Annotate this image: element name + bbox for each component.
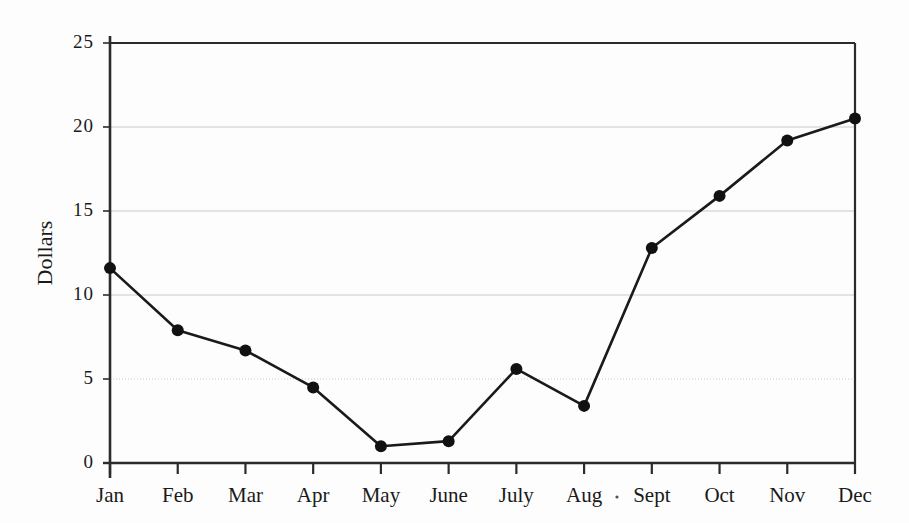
data-point-july	[510, 363, 522, 375]
data-point-aug	[578, 400, 590, 412]
y-axis-title: Dollars	[32, 221, 57, 286]
y-tick-label-5: 5	[84, 367, 95, 388]
y-tick-label-15: 15	[73, 199, 94, 220]
x-tick-label-apr: Apr	[297, 483, 330, 507]
data-point-sept	[646, 242, 658, 254]
data-point-mar	[239, 344, 251, 356]
data-point-june	[443, 435, 455, 447]
data-point-may	[375, 440, 387, 452]
chart-background	[0, 0, 909, 523]
y-tick-label-10: 10	[73, 283, 94, 304]
x-tick-label-july: July	[499, 483, 535, 507]
data-point-apr	[307, 381, 319, 393]
x-tick-label-june: June	[429, 483, 468, 507]
chart-page: 0510152025 JanFebMarAprMayJuneJulyAugSep…	[0, 0, 909, 523]
x-tick-label-feb: Feb	[162, 483, 194, 507]
y-tick-label-20: 20	[73, 115, 94, 136]
y-tick-label-25: 25	[73, 31, 94, 52]
x-tick-label-jan: Jan	[96, 483, 124, 507]
data-point-dec	[849, 113, 861, 125]
x-tick-label-sept: Sept	[633, 483, 671, 507]
data-point-feb	[172, 324, 184, 336]
x-tick-label-aug: Aug	[566, 483, 603, 507]
x-tick-label-nov: Nov	[769, 483, 806, 507]
x-tick-label-mar: Mar	[228, 483, 263, 507]
x-tick-label-oct: Oct	[704, 483, 734, 507]
scan-speck	[615, 495, 618, 498]
data-point-nov	[781, 134, 793, 146]
data-point-jan	[104, 262, 116, 274]
data-point-oct	[714, 190, 726, 202]
x-tick-label-dec: Dec	[838, 483, 872, 507]
y-tick-label-0: 0	[84, 451, 95, 472]
line-chart: 0510152025 JanFebMarAprMayJuneJulyAugSep…	[0, 0, 909, 523]
x-tick-label-may: May	[362, 483, 401, 507]
